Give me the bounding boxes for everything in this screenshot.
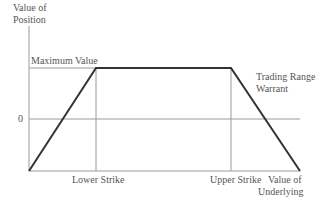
zero-label: 0 (18, 113, 23, 125)
x-axis-label-1: Value of (268, 174, 302, 186)
series-label-2: Warrant (256, 83, 288, 95)
x-axis-label-2: Underlying (258, 186, 304, 198)
y-axis-label-1: Value of (13, 2, 47, 14)
series-label-1: Trading Range (256, 71, 315, 83)
lower-strike-label: Lower Strike (72, 174, 125, 186)
y-axis-label-2: Position (13, 14, 46, 26)
max-value-label: Maximum Value (31, 55, 98, 67)
upper-strike-label: Upper Strike (210, 174, 261, 186)
